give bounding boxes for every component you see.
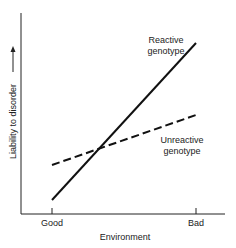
reactive-genotype-label: Reactive genotype — [138, 35, 194, 57]
x-axis-title: Environment — [90, 232, 160, 243]
arrow-head-icon — [11, 46, 16, 52]
chart-canvas — [0, 0, 236, 248]
y-axis-title: Liability to disorder — [8, 84, 18, 159]
reactive-genotype-line — [52, 43, 196, 200]
reactive-label-line2: genotype — [138, 46, 194, 57]
unreactive-label-line2: genotype — [152, 146, 212, 157]
reactive-label-line1: Reactive — [138, 35, 194, 46]
unreactive-genotype-label: Unreactive genotype — [152, 135, 212, 157]
x-tick-label-bad: Bad — [183, 218, 209, 229]
x-tick-label-good: Good — [37, 218, 67, 229]
unreactive-label-line1: Unreactive — [152, 135, 212, 146]
